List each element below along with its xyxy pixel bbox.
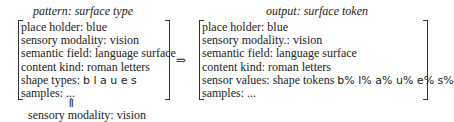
output-title: output: surface token [266,5,368,17]
pattern-line-samples: samples: ... [21,87,176,100]
transform-arrow-icon: ⇒ [176,54,186,66]
output-line-samples: samples: ... [202,87,454,100]
pattern-frame: place holder: blue sensory modality: vis… [18,20,170,100]
input-caption: sensory modality: vision [28,109,146,121]
output-frame: place holder: blue sensory modality.: vi… [199,20,428,100]
pattern-title: pattern: surface type [33,5,133,17]
